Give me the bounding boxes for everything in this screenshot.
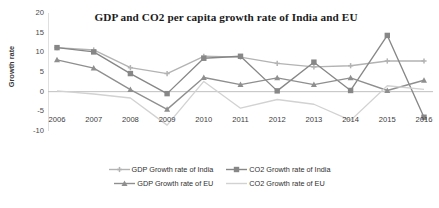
data-point-marker bbox=[54, 45, 59, 50]
x-tick-label: 2007 bbox=[77, 115, 111, 124]
legend-row: GDP Growth rate of IndiaCO2 Growth rate … bbox=[0, 162, 439, 176]
data-point-marker bbox=[385, 58, 390, 63]
series-line bbox=[57, 35, 424, 117]
data-point-marker bbox=[348, 75, 354, 81]
x-tick-label: 2014 bbox=[334, 115, 368, 124]
chart-legend: GDP Growth rate of IndiaCO2 Growth rate … bbox=[0, 162, 439, 190]
y-tick-label: 5 bbox=[22, 68, 44, 76]
legend-item-label: CO2 Growth rate of EU bbox=[249, 179, 324, 188]
data-point-marker bbox=[385, 33, 390, 38]
legend-item[interactable]: GDP Growth rate of India bbox=[109, 165, 214, 174]
series-co2-growth-rate-of-india bbox=[54, 33, 426, 120]
x-tick-label: 2015 bbox=[370, 115, 404, 124]
data-point-marker bbox=[274, 75, 280, 81]
legend-item-label: CO2 Growth rate of India bbox=[249, 165, 330, 174]
data-point-marker bbox=[421, 58, 426, 63]
y-tick-label: -10 bbox=[22, 127, 44, 135]
data-point-marker bbox=[275, 88, 280, 93]
y-axis-label: Growth rate bbox=[7, 35, 16, 99]
y-tick-label: 20 bbox=[22, 9, 44, 17]
legend-row: GDP Growth rate of EUCO2 Growth rate of … bbox=[0, 176, 439, 190]
data-point-marker bbox=[238, 54, 243, 59]
series-line bbox=[57, 48, 424, 74]
legend-item[interactable]: CO2 Growth rate of India bbox=[226, 165, 330, 174]
data-point-marker bbox=[127, 87, 133, 93]
data-point-marker bbox=[275, 61, 280, 66]
data-point-marker bbox=[234, 166, 239, 171]
data-point-marker bbox=[348, 63, 353, 68]
x-tick-label: 2010 bbox=[187, 115, 221, 124]
legend-item-label: GDP Growth rate of EU bbox=[137, 179, 213, 188]
legend-marker-none-icon bbox=[226, 179, 247, 188]
legend-item-label: GDP Growth rate of India bbox=[132, 165, 214, 174]
y-tick-label: 0 bbox=[22, 88, 44, 96]
data-point-marker bbox=[165, 71, 170, 76]
x-tick-label: 2013 bbox=[297, 115, 331, 124]
legend-item[interactable]: CO2 Growth rate of EU bbox=[226, 179, 324, 188]
y-tick-label: 15 bbox=[22, 29, 44, 37]
x-tick-label: 2016 bbox=[407, 115, 439, 124]
data-point-marker bbox=[91, 49, 96, 54]
data-point-marker bbox=[201, 56, 206, 61]
legend-marker-triangle-icon bbox=[114, 179, 135, 188]
chart-svg bbox=[48, 13, 433, 131]
data-point-marker bbox=[311, 64, 316, 69]
plot-area bbox=[48, 13, 433, 131]
x-axis-tick-labels: 2006200720082009201020112012201320142015… bbox=[48, 115, 433, 129]
x-tick-label: 2006 bbox=[40, 115, 74, 124]
x-tick-label: 2009 bbox=[150, 115, 184, 124]
x-tick-label: 2011 bbox=[224, 115, 258, 124]
data-point-marker bbox=[164, 91, 169, 96]
data-point-marker bbox=[421, 77, 427, 83]
data-point-marker bbox=[54, 57, 60, 63]
x-tick-label: 2012 bbox=[260, 115, 294, 124]
data-point-marker bbox=[116, 166, 121, 171]
series-gdp-growth-rate-of-eu bbox=[54, 57, 427, 112]
data-point-marker bbox=[201, 74, 207, 80]
legend-marker-square-icon bbox=[226, 165, 247, 174]
legend-item[interactable]: GDP Growth rate of EU bbox=[114, 179, 213, 188]
y-tick-label: 10 bbox=[22, 48, 44, 56]
data-point-marker bbox=[128, 71, 133, 76]
data-point-marker bbox=[311, 59, 316, 64]
legend-marker-cross-icon bbox=[109, 165, 130, 174]
data-point-marker bbox=[128, 65, 133, 70]
chart-container: GDP and CO2 per capita growth rate of In… bbox=[0, 0, 439, 208]
x-tick-label: 2008 bbox=[113, 115, 147, 124]
data-point-marker bbox=[348, 88, 353, 93]
